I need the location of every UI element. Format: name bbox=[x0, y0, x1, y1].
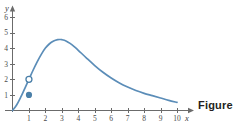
y-tick-label: 6 bbox=[4, 13, 8, 22]
y-axis-label: y bbox=[4, 3, 9, 13]
curve-path bbox=[13, 40, 178, 111]
figure-caption: Figure bbox=[198, 99, 233, 111]
y-tick-label: 4 bbox=[4, 44, 8, 53]
x-tick-label: 10 bbox=[173, 114, 181, 123]
x-tick-label: 3 bbox=[60, 114, 64, 123]
x-tick-label: 1 bbox=[27, 114, 31, 123]
x-tick-label: 5 bbox=[93, 114, 97, 123]
y-tick-label: 3 bbox=[4, 60, 8, 69]
y-axis-ticks: 123456 bbox=[4, 13, 15, 100]
figure-container: 123456 12345678910 y x Figure bbox=[0, 0, 241, 129]
y-tick-label: 1 bbox=[4, 91, 8, 100]
axes-group bbox=[5, 6, 194, 114]
x-tick-label: 9 bbox=[159, 114, 163, 123]
x-tick-label: 4 bbox=[76, 114, 80, 123]
y-axis-arrow-icon bbox=[10, 6, 15, 12]
x-axis-label: x bbox=[184, 113, 189, 123]
x-tick-label: 8 bbox=[142, 114, 146, 123]
y-tick-label: 5 bbox=[4, 28, 8, 37]
filled-circle-marker bbox=[26, 92, 32, 98]
y-tick-label: 2 bbox=[4, 75, 8, 84]
x-axis-arrow-icon bbox=[188, 108, 194, 113]
x-tick-label: 6 bbox=[109, 114, 113, 123]
x-tick-label: 2 bbox=[44, 114, 48, 123]
x-tick-label: 7 bbox=[126, 114, 130, 123]
open-circle-marker bbox=[26, 76, 32, 82]
